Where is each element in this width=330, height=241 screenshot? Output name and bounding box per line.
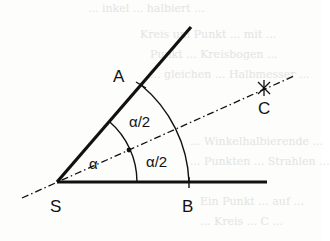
ray-sa xyxy=(57,27,191,182)
star-marker-c xyxy=(258,80,270,96)
label-alpha: α xyxy=(89,155,98,172)
label-s: S xyxy=(50,197,61,216)
label-c: C xyxy=(258,99,270,118)
label-alpha-half-upper: α/2 xyxy=(129,113,150,130)
label-b: B xyxy=(182,197,193,216)
inner-arc xyxy=(109,122,137,183)
bisector-line xyxy=(22,76,294,198)
label-a: A xyxy=(113,67,125,86)
label-alpha-half-lower: α/2 xyxy=(146,153,167,170)
intersection-dot xyxy=(127,148,132,153)
